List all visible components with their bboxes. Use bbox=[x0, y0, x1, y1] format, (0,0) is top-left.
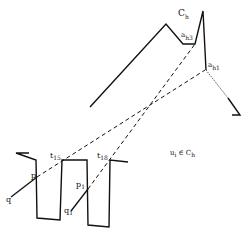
diagram-canvas: Ch ah3 ah1 t15 t18 p p1 q q1 ui∈ Ch bbox=[0, 0, 250, 235]
label-c-h: Ch bbox=[178, 8, 189, 20]
label-p1: p1 bbox=[76, 180, 85, 190]
label-membership: ui∈ Ch bbox=[170, 149, 195, 158]
label-t15: t15 bbox=[50, 151, 61, 161]
label-p: p bbox=[31, 171, 36, 180]
label-q1: q1 bbox=[64, 206, 73, 216]
segment-q1-p1 bbox=[71, 189, 88, 211]
label-a-h3: ah3 bbox=[181, 31, 193, 41]
chain-c-h bbox=[90, 11, 206, 107]
label-a-h1: ah1 bbox=[208, 61, 220, 71]
label-q: q bbox=[6, 195, 11, 204]
label-t18: t18 bbox=[97, 151, 108, 161]
chain-c-h-tail bbox=[228, 98, 240, 115]
segment-q-p bbox=[11, 177, 37, 197]
dashed-line-p1-to-ah3 bbox=[88, 44, 195, 189]
chain-c-h-dotted-segment bbox=[206, 70, 228, 98]
